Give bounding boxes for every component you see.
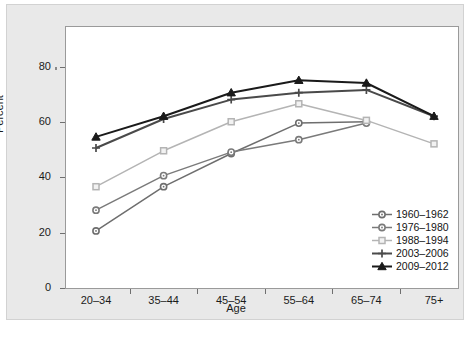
chart-screenshot: Percent Age 020406080 20–3435–4445–5455–… <box>0 0 472 338</box>
legend-marker-circle-icon <box>371 208 393 221</box>
x-axis-tick-mark <box>400 289 401 294</box>
data-point-square <box>228 119 234 125</box>
data-point-circle <box>161 173 167 179</box>
legend: 1960–19621976–19801988–19942003–20062009… <box>371 208 449 273</box>
x-axis-tick-label: 35–44 <box>129 294 199 306</box>
legend-item: 2009–2012 <box>371 260 449 273</box>
data-point-plus <box>227 96 235 104</box>
data-point-circle <box>93 207 99 213</box>
data-point-plus <box>295 89 303 97</box>
data-point-circle <box>379 224 385 230</box>
legend-marker-circle-icon <box>371 221 393 234</box>
data-point-square <box>161 148 167 154</box>
y-axis-tick-label: 40 <box>25 170 51 182</box>
legend-label: 2009–2012 <box>396 260 449 273</box>
legend-label: 1976–1980 <box>396 221 449 234</box>
data-point-square <box>431 141 437 147</box>
y-axis-tick-label: 20 <box>25 226 51 238</box>
data-point-square <box>93 184 99 190</box>
data-point-plus <box>92 144 100 152</box>
data-point-circle <box>161 184 167 190</box>
x-axis-tick-mark <box>130 289 131 294</box>
legend-label: 2003–2006 <box>396 247 449 260</box>
scan-artifact-speck <box>55 67 57 70</box>
x-axis-tick-mark <box>265 289 266 294</box>
data-point-circle <box>93 228 99 234</box>
x-axis-tick-mark <box>332 289 333 294</box>
legend-marker-plus-icon <box>371 247 393 260</box>
data-point-square <box>379 238 385 244</box>
data-point-plus <box>362 86 370 94</box>
y-axis-tick-label: 80 <box>25 60 51 72</box>
x-axis-tick-label: 20–34 <box>61 294 131 306</box>
data-point-circle <box>379 211 385 217</box>
legend-marker-triangle-icon <box>371 260 393 273</box>
x-axis-tick-label: 65–74 <box>331 294 401 306</box>
x-axis-tick-mark <box>197 289 198 294</box>
series-line-1960-1962 <box>96 122 366 231</box>
legend-label: 1988–1994 <box>396 234 449 247</box>
data-point-square <box>296 101 302 107</box>
legend-item: 1976–1980 <box>371 221 449 234</box>
series-line-2003-2006 <box>96 90 434 148</box>
legend-item: 2003–2006 <box>371 247 449 260</box>
y-axis-tick-label: 0 <box>25 281 51 293</box>
y-axis-tick-label: 60 <box>25 115 51 127</box>
x-axis-tick-label: 55–64 <box>264 294 334 306</box>
legend-marker-square-icon <box>371 234 393 247</box>
legend-item: 1960–1962 <box>371 208 449 221</box>
legend-item: 1988–1994 <box>371 234 449 247</box>
series-line-2009-2012 <box>96 80 434 137</box>
data-point-circle <box>296 137 302 143</box>
data-point-square <box>363 117 369 123</box>
x-axis-tick-label: 75+ <box>399 294 469 306</box>
data-point-circle <box>228 149 234 155</box>
figure-panel: Percent Age 020406080 20–3435–4445–5455–… <box>6 4 464 320</box>
data-point-circle <box>296 120 302 126</box>
series-line-1976-1980 <box>96 123 366 210</box>
x-axis-tick-label: 45–54 <box>196 294 266 306</box>
y-axis-title: Percent <box>0 95 5 133</box>
data-point-plus <box>378 250 386 258</box>
legend-label: 1960–1962 <box>396 208 449 221</box>
